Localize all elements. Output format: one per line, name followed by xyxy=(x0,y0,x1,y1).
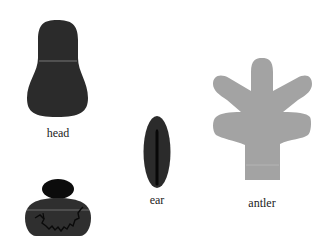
ear-shape xyxy=(144,116,171,188)
ear-label: ear xyxy=(150,194,165,206)
head-label: head xyxy=(47,127,70,139)
body-cap xyxy=(42,179,74,199)
antler-shape xyxy=(213,58,312,180)
ear-stripe xyxy=(156,129,159,185)
body-shape xyxy=(25,179,91,236)
head-shape xyxy=(27,20,88,117)
antler-label: antler xyxy=(248,197,275,209)
